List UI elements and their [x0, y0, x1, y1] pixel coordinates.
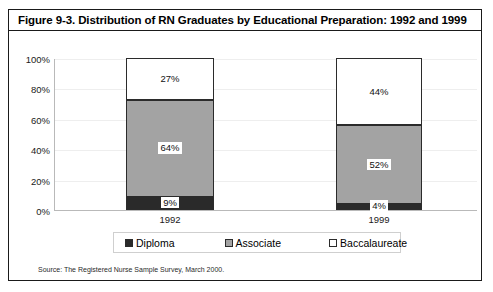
legend-label-associate: Associate — [236, 237, 282, 249]
legend-label-baccalaureate: Baccalaureate — [340, 237, 407, 249]
bar-label-1992-associate: 64% — [158, 142, 181, 154]
bar-label-1999-associate: 52% — [367, 159, 390, 171]
bar-segment-1992-diploma[interactable]: 9% — [127, 196, 213, 210]
legend-swatch-baccalaureate-icon — [329, 239, 337, 247]
bar-label-1992-diploma: 9% — [161, 197, 179, 209]
ytick-label-0: 0% — [36, 206, 50, 217]
ytick-label-100: 100% — [26, 54, 50, 65]
ytick-label-20: 20% — [31, 175, 50, 186]
figure-title-bar: Figure 9-3. Distribution of RN Graduates… — [9, 10, 481, 31]
legend-label-diploma: Diploma — [136, 237, 175, 249]
plot-area: 100% 80% 60% 40% 20% 0% 27% 64% 9% 1992 — [54, 59, 477, 211]
ytick-label-80: 80% — [31, 84, 50, 95]
ytick-label-40: 40% — [31, 145, 50, 156]
legend-swatch-diploma-icon — [125, 239, 133, 247]
bar-1992[interactable]: 27% 64% 9% 1992 — [126, 58, 214, 210]
bar-segment-1999-associate[interactable]: 52% — [337, 125, 421, 203]
legend-item-baccalaureate[interactable]: Baccalaureate — [329, 237, 407, 249]
bar-1999[interactable]: 44% 52% 4% 1999 — [336, 58, 422, 210]
bar-label-1999-baccalaureate: 44% — [369, 87, 388, 97]
chart-body: 100% 80% 60% 40% 20% 0% 27% 64% 9% 1992 — [9, 31, 481, 282]
source-note: Source: The Registered Nurse Sample Surv… — [38, 266, 224, 273]
bar-label-1999-diploma: 4% — [370, 200, 388, 212]
legend-item-associate[interactable]: Associate — [225, 237, 282, 249]
xtick-label-1992: 1992 — [127, 214, 213, 225]
bar-segment-1992-baccalaureate[interactable]: 27% — [127, 59, 213, 100]
legend-swatch-associate-icon — [225, 239, 233, 247]
bar-segment-1992-associate[interactable]: 64% — [127, 100, 213, 196]
legend-item-diploma[interactable]: Diploma — [125, 237, 175, 249]
chart-legend: Diploma Associate Baccalaureate — [113, 232, 401, 253]
bar-label-1992-baccalaureate: 27% — [160, 74, 179, 84]
figure-title: Figure 9-3. Distribution of RN Graduates… — [9, 14, 467, 26]
figure-frame: Figure 9-3. Distribution of RN Graduates… — [8, 9, 482, 281]
xtick-label-1999: 1999 — [337, 214, 421, 225]
ytick-label-60: 60% — [31, 114, 50, 125]
bar-segment-1999-baccalaureate[interactable]: 44% — [337, 59, 421, 125]
bar-segment-1999-diploma[interactable]: 4% — [337, 203, 421, 209]
